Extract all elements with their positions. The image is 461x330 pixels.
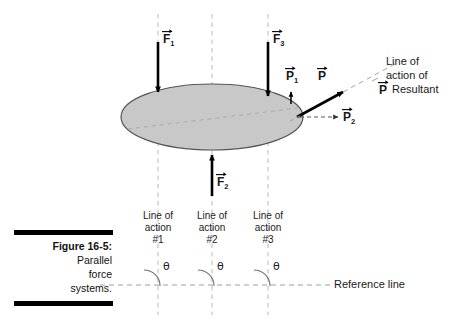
angle-label-3: θ — [273, 261, 280, 274]
force-label-f1-subscript: 1 — [170, 39, 174, 48]
line-of-action-label-3: Line of action #3 — [240, 210, 296, 245]
caption-rule-bottom — [14, 301, 113, 306]
figure-caption-line-1: Parallel — [14, 254, 112, 268]
figure-caption-block: Figure 16-5: Parallel force systems. — [14, 230, 113, 306]
resultant-note-line1: Line of — [386, 55, 428, 69]
component-label-p2-subscript: 2 — [351, 117, 355, 126]
line-of-action-label-1-number: #1 — [130, 234, 186, 246]
rigid-body-ellipse — [121, 84, 303, 150]
force-label-f1: F1 — [163, 32, 175, 46]
line-of-action-label-2-line2: action — [184, 222, 240, 234]
force-label-f3-subscript: 3 — [280, 39, 284, 48]
angle-label-2: θ — [217, 261, 224, 274]
line-of-action-label-2-number: #2 — [184, 234, 240, 246]
angle-label-1: θ — [163, 261, 170, 274]
force-label-f2-subscript: 2 — [224, 182, 228, 191]
resultant-line-of-action-note: Line of action of — [386, 55, 428, 83]
line-of-action-label-1-line2: action — [130, 222, 186, 234]
line-of-action-label-1-line1: Line of — [130, 210, 186, 222]
figure-caption-text: Figure 16-5: Parallel force systems. — [14, 235, 113, 301]
reference-line-label: Reference line — [334, 278, 405, 291]
figure-caption-title: Figure 16-5: — [14, 240, 112, 254]
figure-parallel-force-systems: F1 F3 F2 P1 P P2 Line of action of P Res… — [0, 0, 461, 330]
resultant-note-line2: action of — [386, 69, 428, 83]
resultant-label-p: P — [318, 69, 326, 83]
component-label-p1: P1 — [286, 69, 298, 83]
line-of-action-label-3-number: #3 — [240, 234, 296, 246]
figure-caption-line-3: systems. — [14, 282, 112, 296]
line-of-action-label-2-line1: Line of — [184, 210, 240, 222]
line-of-action-label-2: Line of action #2 — [184, 210, 240, 245]
line-of-action-label-3-line2: action — [240, 222, 296, 234]
line-of-action-label-3-line1: Line of — [240, 210, 296, 222]
line-of-action-label-1: Line of action #1 — [130, 210, 186, 245]
component-label-p1-subscript: 1 — [294, 76, 298, 85]
component-label-p2: P2 — [343, 110, 355, 124]
force-label-f2: F2 — [217, 175, 229, 189]
force-label-f3: F3 — [273, 32, 285, 46]
resultant-vector-p — [297, 92, 343, 117]
figure-caption-line-2: force — [14, 268, 112, 282]
resultant-note-symbol: P — [379, 83, 387, 97]
resultant-note-line3: Resultant — [392, 83, 438, 97]
